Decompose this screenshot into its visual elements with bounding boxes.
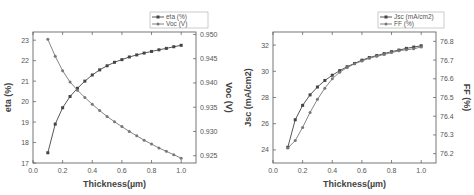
circle-marker	[157, 146, 160, 149]
square-marker	[150, 50, 153, 53]
y2-tick-label: 76.4	[440, 113, 454, 120]
square-marker	[316, 86, 319, 89]
x-tick-label: 0.4	[327, 167, 337, 174]
circle-marker	[143, 139, 146, 142]
circle-marker	[135, 134, 138, 137]
plot-frame	[273, 32, 436, 163]
y-tick-label: 24	[261, 146, 269, 153]
y-tick-label: 18	[21, 139, 29, 146]
circle-marker	[397, 49, 400, 52]
y2-tick-label: 0.945	[200, 55, 218, 62]
y2-tick-label: 0.930	[200, 128, 218, 135]
square-marker	[69, 95, 72, 98]
y-tick-label: 19	[21, 119, 29, 126]
square-marker	[157, 48, 160, 51]
circle-marker	[316, 98, 319, 101]
y2-tick-label: 0.925	[200, 152, 218, 159]
y2-tick-label: 76.3	[440, 131, 454, 138]
y2-tick-label: 0.940	[200, 79, 218, 86]
square-marker	[143, 52, 146, 55]
circle-marker	[91, 103, 94, 106]
square-marker	[165, 47, 168, 50]
x-tick-label: 0.6	[117, 167, 127, 174]
y2-tick-label: 76.6	[440, 75, 454, 82]
y2-axis-label: Voc (V)	[224, 82, 234, 112]
series-line-0	[288, 46, 421, 148]
circle-marker	[106, 115, 109, 118]
x-tick-label: 0.2	[298, 167, 308, 174]
circle-marker	[46, 38, 49, 41]
circle-marker	[331, 77, 334, 80]
y-tick-label: 28	[261, 94, 269, 101]
x-tick-label: 0.4	[87, 167, 97, 174]
circle-marker	[113, 120, 116, 123]
legend-square-icon	[385, 16, 388, 19]
circle-marker	[120, 125, 123, 128]
chart-canvas: 0.00.20.40.60.81.0171819202122230.9250.9…	[0, 0, 474, 195]
eta-voc-chart: 0.00.20.40.60.81.0171819202122230.9250.9…	[3, 12, 234, 189]
x-tick-label: 0.6	[357, 167, 367, 174]
square-marker	[113, 61, 116, 64]
x-tick-label: 0.0	[28, 167, 38, 174]
circle-marker	[360, 60, 363, 63]
x-tick-label: 0.8	[147, 167, 157, 174]
square-marker	[98, 68, 101, 71]
jsc-ff-chart: 0.00.20.40.60.81.0242628303276.276.376.4…	[243, 12, 472, 189]
y2-tick-label: 76.8	[440, 38, 454, 45]
square-marker	[91, 73, 94, 76]
square-marker	[46, 151, 49, 154]
circle-marker	[83, 96, 86, 99]
circle-marker	[323, 87, 326, 90]
y-tick-label: 32	[261, 42, 269, 49]
circle-marker	[54, 55, 57, 58]
x-tick-label: 0.0	[268, 167, 278, 174]
square-marker	[309, 93, 312, 96]
y2-tick-label: 76.5	[440, 94, 454, 101]
square-marker	[294, 118, 297, 121]
y-tick-label: 22	[21, 57, 29, 64]
y-tick-label: 17	[21, 160, 29, 167]
y-axis-label: Jsc (mA/cm2)	[243, 68, 253, 127]
plot-frame	[33, 32, 196, 163]
legend: eta (%)Voc (V)	[150, 12, 208, 28]
circle-marker	[180, 157, 183, 160]
y2-tick-label: 0.935	[200, 104, 218, 111]
circle-marker	[346, 66, 349, 69]
x-tick-label: 1.0	[176, 167, 186, 174]
circle-marker	[368, 57, 371, 60]
square-marker	[83, 80, 86, 83]
y-tick-label: 20	[21, 98, 29, 105]
square-marker	[128, 55, 131, 58]
square-marker	[135, 53, 138, 56]
circle-marker	[338, 71, 341, 74]
y-tick-label: 21	[21, 78, 29, 85]
circle-marker	[98, 109, 101, 112]
circle-marker	[383, 53, 386, 56]
circle-marker	[76, 89, 79, 92]
circle-marker	[353, 62, 356, 65]
circle-marker	[128, 130, 131, 133]
y2-tick-label: 76.7	[440, 57, 454, 64]
y2-tick-label: 76.2	[440, 150, 454, 157]
circle-marker	[412, 47, 415, 50]
x-tick-label: 0.2	[58, 167, 68, 174]
circle-marker	[165, 150, 168, 153]
legend-label: Voc (V)	[166, 20, 187, 28]
square-marker	[331, 74, 334, 77]
x-axis-label: Thickness(µm)	[83, 179, 146, 189]
y-tick-label: 26	[261, 120, 269, 127]
circle-marker	[420, 45, 423, 48]
circle-marker	[69, 80, 72, 83]
x-tick-label: 0.8	[387, 167, 397, 174]
y-tick-label: 23	[21, 37, 29, 44]
circle-marker	[301, 126, 304, 129]
square-marker	[180, 44, 183, 47]
circle-marker	[390, 51, 393, 54]
square-marker	[172, 45, 175, 48]
x-tick-label: 1.0	[416, 167, 426, 174]
series-line-1	[48, 39, 181, 158]
circle-marker	[150, 143, 153, 146]
circle-marker	[286, 147, 289, 150]
legend: Jsc (mA/cm2)FF (%)	[378, 12, 444, 28]
legend-square-icon	[157, 16, 160, 19]
